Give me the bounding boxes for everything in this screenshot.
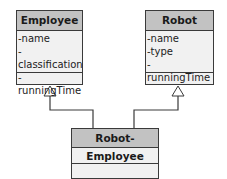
attribute: -runningTime [147,58,213,84]
attribute: -name [18,32,82,45]
class-name: Employee [17,11,82,31]
generalization-arrow-icon [172,86,184,96]
attribute: -type [147,45,213,58]
attributes-section: -name -type -runningTime [146,31,213,73]
class-robot-employee[interactable]: Robot-Employee [71,128,159,179]
attribute: -classification [18,45,82,71]
class-robot[interactable]: Robot -name -type -runningTime [145,10,214,85]
connector-robot [134,95,178,128]
class-name: Robot-Employee [72,129,158,148]
attribute: -runningTime [18,71,82,97]
class-employee[interactable]: Employee -name -classification -runningT… [16,10,83,85]
attributes-section: -name -classification -runningTime [17,31,82,73]
class-name: Robot [146,11,213,31]
attribute: -name [147,32,213,45]
connector-employee [50,95,93,128]
